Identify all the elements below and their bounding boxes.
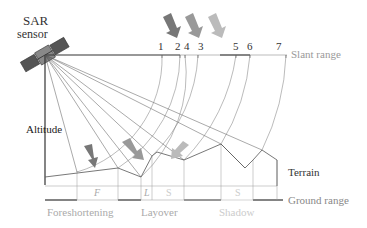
foreshortening-label: Foreshortening: [47, 207, 114, 218]
slant-tick-6: 6: [247, 41, 253, 52]
terrain-label: Terrain: [288, 167, 320, 178]
segment-mark-l: L: [144, 188, 150, 198]
ground-range-label: Ground range: [288, 195, 349, 206]
arrow-foreshortening-icon: [84, 144, 98, 168]
segment-mark-s2: S: [235, 188, 241, 198]
arrow-foreshortening-top-icon: [163, 13, 181, 38]
altitude-label: Altitude: [26, 124, 62, 135]
arrow-layover-top-icon: [185, 13, 203, 38]
sensor-label-line1: SAR: [23, 14, 48, 27]
slant-tick-5: 5: [233, 41, 239, 52]
slant-tick-1: 1: [158, 41, 164, 52]
radar-rays: [45, 55, 262, 177]
shadow-label: Shadow: [219, 207, 254, 218]
slant-range-label: Slant range: [291, 49, 341, 60]
arrow-shadow-icon: [171, 141, 189, 159]
sensor-label-line2: sensor: [17, 28, 48, 40]
slant-tick-4: 4: [184, 41, 190, 52]
layover-label: Layover: [141, 207, 178, 218]
slant-tick-2: 2: [175, 41, 181, 52]
segment-mark-s1: S: [166, 188, 172, 198]
slant-tick-3: 3: [198, 41, 204, 52]
arrow-shadow-top-icon: [208, 13, 226, 38]
segment-mark-f: F: [94, 188, 100, 198]
slant-tick-7: 7: [276, 41, 282, 52]
